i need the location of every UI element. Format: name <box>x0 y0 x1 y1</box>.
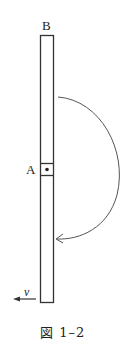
label-a: A <box>26 162 35 178</box>
diagram-canvas <box>0 0 133 354</box>
arc-arrowhead-icon <box>56 234 63 243</box>
rotation-arc <box>57 97 119 239</box>
pivot-dot <box>45 168 49 172</box>
figure-caption: 図 1–2 <box>40 322 85 341</box>
label-b: B <box>42 18 51 34</box>
velocity-arrowhead-icon <box>13 297 20 302</box>
label-velocity: v <box>24 285 29 300</box>
